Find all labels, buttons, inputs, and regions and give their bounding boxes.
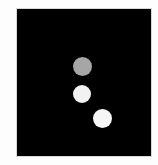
gray-dot bbox=[73, 57, 92, 76]
white-dot-lower bbox=[93, 109, 112, 128]
black-frame bbox=[17, 9, 151, 156]
white-dot-middle bbox=[73, 85, 91, 103]
